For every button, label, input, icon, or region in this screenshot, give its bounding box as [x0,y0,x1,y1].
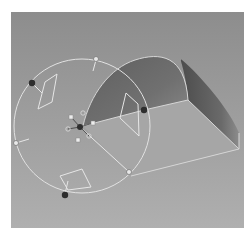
ring-handle-top[interactable] [94,57,99,62]
pivot-center[interactable] [77,124,83,130]
pivot-handle-right[interactable] [91,121,95,125]
ring-handle-left[interactable] [14,141,19,146]
3d-viewport[interactable] [11,12,244,228]
ring-handle-right[interactable] [141,107,147,113]
ring-handle-bottom[interactable] [62,192,68,198]
ring-handle-lower-right[interactable] [127,170,132,175]
pivot-handle-bottom[interactable] [76,138,80,142]
ring-handle-upper-left[interactable] [29,80,35,86]
pivot-handle-upper-left[interactable] [69,115,73,119]
